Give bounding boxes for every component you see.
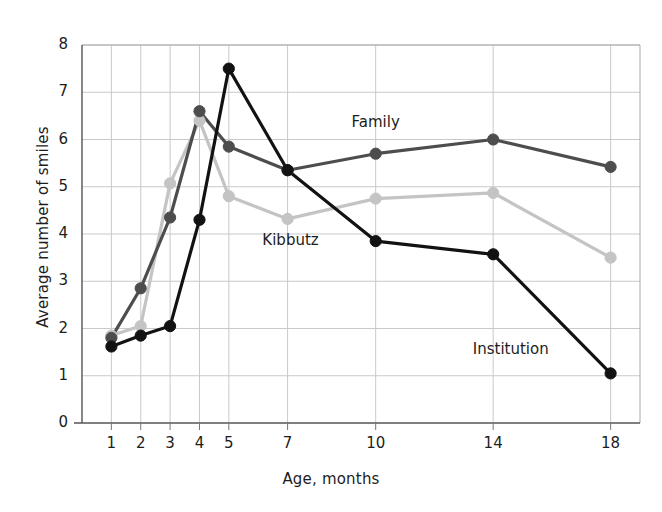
data-point-kibbutz [165, 178, 176, 189]
x-tick-label: 10 [361, 434, 391, 452]
data-point-institution [370, 236, 381, 247]
data-point-family [605, 161, 616, 172]
data-point-kibbutz [488, 187, 499, 198]
data-point-institution [488, 249, 499, 260]
y-tick-label: 1 [40, 366, 68, 384]
x-tick-label: 7 [273, 434, 303, 452]
data-point-institution [194, 214, 205, 225]
y-tick-label: 5 [40, 177, 68, 195]
data-point-institution [165, 321, 176, 332]
data-point-institution [135, 330, 146, 341]
data-point-institution [605, 368, 616, 379]
x-axis-title: Age, months [0, 470, 662, 488]
y-tick-label: 8 [40, 35, 68, 53]
y-tick-label: 4 [40, 224, 68, 242]
data-point-family [488, 134, 499, 145]
y-tick-label: 2 [40, 319, 68, 337]
data-point-kibbutz [605, 252, 616, 263]
data-point-institution [223, 63, 234, 74]
data-point-family [165, 212, 176, 223]
data-point-family [223, 141, 234, 152]
data-point-kibbutz [223, 191, 234, 202]
x-tick-label: 18 [596, 434, 626, 452]
x-tick-label: 5 [214, 434, 244, 452]
y-tick-label: 7 [40, 82, 68, 100]
smiles-line-chart: Average number of smiles Age, months 012… [0, 0, 662, 512]
data-point-family [194, 106, 205, 117]
x-tick-label: 3 [155, 434, 185, 452]
y-tick-label: 6 [40, 130, 68, 148]
series-annotation-institution: Institution [473, 340, 549, 358]
series-annotation-kibbutz: Kibbutz [262, 231, 318, 249]
y-tick-label: 0 [40, 413, 68, 431]
x-tick-label: 4 [184, 434, 214, 452]
x-tick-label: 2 [126, 434, 156, 452]
x-tick-label: 1 [96, 434, 126, 452]
data-point-family [370, 148, 381, 159]
data-point-family [135, 283, 146, 294]
data-point-kibbutz [282, 213, 293, 224]
data-point-kibbutz [370, 193, 381, 204]
data-point-institution [282, 165, 293, 176]
y-tick-label: 3 [40, 271, 68, 289]
x-tick-label: 14 [478, 434, 508, 452]
series-annotation-family: Family [352, 113, 400, 131]
data-point-institution [106, 341, 117, 352]
